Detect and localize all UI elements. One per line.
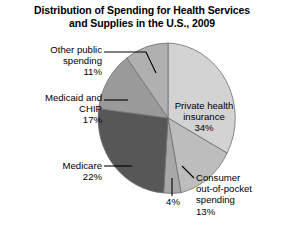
label-private-value: 34%: [168, 122, 240, 133]
label-private-line-1: Private health: [168, 100, 240, 111]
label-private-line-2: insurance: [168, 111, 240, 122]
label-other-public-line-1: Other public: [24, 44, 102, 55]
pie-chart-figure: Distribution of Spending for Health Serv…: [0, 0, 284, 240]
label-small-slice-percent: 4%: [160, 196, 186, 207]
label-medicaid-chip: Medicaid and CHIP 17%: [6, 92, 102, 126]
label-medicare: Medicare 22%: [34, 160, 102, 182]
label-consumer-line-1: Consumer: [196, 172, 282, 183]
label-other-public-spending: Other public spending 11%: [24, 44, 102, 78]
label-other-public-line-2: spending: [24, 55, 102, 66]
label-medicaid-value: 17%: [6, 114, 102, 125]
label-small-slice-value: 4%: [160, 196, 186, 207]
pie-slice-medicare[interactable]: [98, 109, 168, 193]
label-consumer-out-of-pocket: Consumer out-of-pocket spending 13%: [196, 172, 282, 217]
label-consumer-line-2: out-of-pocket: [196, 183, 282, 194]
label-medicare-value: 22%: [34, 171, 102, 182]
label-private-health-insurance: Private health insurance 34%: [168, 100, 240, 134]
label-other-public-value: 11%: [24, 66, 102, 77]
label-medicaid-line-1: Medicaid and: [6, 92, 102, 103]
label-medicaid-line-2: CHIP: [6, 103, 102, 114]
label-consumer-line-3: spending: [196, 194, 282, 205]
label-medicare-line-1: Medicare: [34, 160, 102, 171]
label-consumer-value: 13%: [196, 206, 282, 217]
